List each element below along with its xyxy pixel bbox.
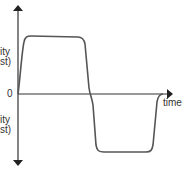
velocity-time-graph xyxy=(0,0,192,173)
x-axis-label: time xyxy=(163,97,182,108)
y-negative-label-line2: st) xyxy=(0,124,11,135)
origin-label: 0 xyxy=(7,88,13,99)
y-positive-label-line2: st) xyxy=(0,56,11,67)
